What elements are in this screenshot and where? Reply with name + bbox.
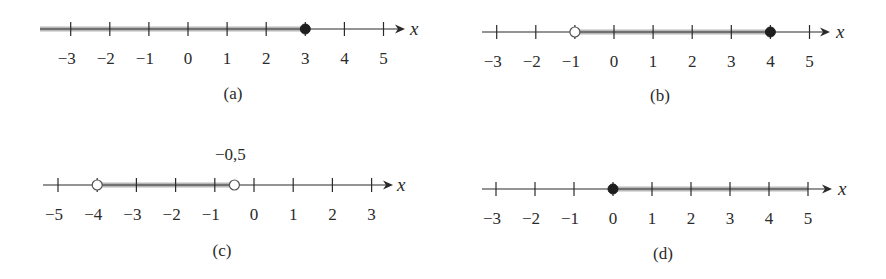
- tick-label: 2: [328, 205, 337, 224]
- tick-label: 1: [649, 52, 658, 71]
- tick-label: −2: [163, 205, 181, 224]
- tick-label: −1: [561, 209, 579, 228]
- tick-label: 5: [805, 52, 814, 71]
- subfigure-caption: (a): [224, 84, 243, 103]
- number-line-b: x−3−2−1012345(b): [482, 21, 845, 105]
- closed-endpoint-dot: [608, 184, 618, 194]
- open-endpoint-circle: [229, 180, 239, 190]
- tick-label: 5: [379, 49, 388, 68]
- tick-label: 1: [648, 209, 657, 228]
- tick-label: −3: [483, 209, 501, 228]
- number-lines-figure: x−3−2−1012345(a) x−3−2−1012345(b) x−5−4−…: [0, 0, 886, 279]
- tick-label: 0: [610, 52, 619, 71]
- tick-label: 3: [301, 49, 310, 68]
- tick-label: 3: [367, 205, 376, 224]
- tick-label: −1: [562, 52, 580, 71]
- tick-label: 2: [262, 49, 271, 68]
- tick-label: 0: [250, 205, 259, 224]
- tick-label: 2: [688, 52, 697, 71]
- endpoint-annotation: −0,5: [215, 145, 246, 164]
- tick-label: 1: [289, 205, 298, 224]
- tick-label: −5: [45, 205, 63, 224]
- axis-variable-label: x: [396, 174, 406, 195]
- number-line-a: x−3−2−1012345(a): [40, 18, 419, 103]
- subfigure-caption: (d): [653, 244, 673, 263]
- tick-label: −2: [522, 209, 540, 228]
- subfigure-caption: (c): [213, 241, 232, 260]
- open-endpoint-circle: [92, 180, 102, 190]
- subfigure-caption: (b): [650, 86, 670, 105]
- tick-label: 3: [726, 209, 735, 228]
- closed-endpoint-dot: [300, 24, 310, 34]
- tick-label: 5: [804, 209, 813, 228]
- tick-label: −2: [97, 49, 115, 68]
- axis-variable-label: x: [409, 18, 419, 39]
- tick-label: 4: [340, 49, 349, 68]
- number-line-c: x−5−4−3−2−10123−0,5(c): [43, 145, 406, 260]
- tick-label: −1: [136, 49, 154, 68]
- tick-label: −3: [58, 49, 76, 68]
- tick-label: −3: [123, 205, 141, 224]
- tick-label: 4: [765, 209, 774, 228]
- tick-label: 0: [184, 49, 193, 68]
- tick-label: −2: [523, 52, 541, 71]
- tick-label: −1: [202, 205, 220, 224]
- axis-variable-label: x: [835, 21, 845, 42]
- tick-label: −4: [84, 205, 103, 224]
- tick-label: 3: [727, 52, 736, 71]
- number-line-d: x−3−2−1012345(d): [482, 178, 847, 263]
- open-endpoint-circle: [570, 27, 580, 37]
- tick-label: 0: [609, 209, 618, 228]
- tick-label: 1: [223, 49, 232, 68]
- tick-label: −3: [484, 52, 502, 71]
- closed-endpoint-dot: [765, 27, 775, 37]
- tick-label: 2: [687, 209, 696, 228]
- tick-label: 4: [766, 52, 775, 71]
- axis-variable-label: x: [837, 178, 847, 199]
